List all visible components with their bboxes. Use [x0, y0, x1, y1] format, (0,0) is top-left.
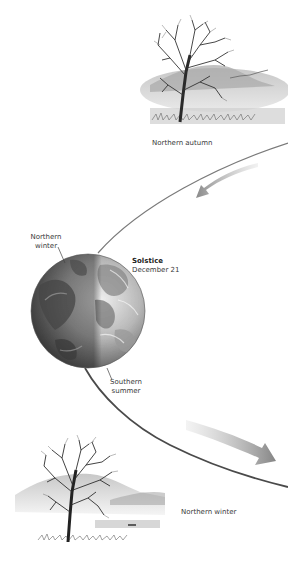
globe-northern-winter-line1: Northern	[28, 233, 64, 242]
solstice-diagram	[0, 0, 288, 583]
solstice-date: December 21	[132, 266, 179, 275]
northern-autumn-label: Northern autumn	[152, 139, 212, 148]
solstice-title: Solstice	[132, 257, 163, 266]
earth-globe-icon	[31, 254, 145, 368]
autumn-tree-icon	[140, 15, 288, 124]
southern-summer-label: Southern summer	[106, 378, 146, 396]
southern-summer-line2: summer	[106, 387, 146, 396]
northern-winter-scene-label: Northern winter	[181, 508, 236, 517]
globe-northern-winter-label: Northern winter	[28, 233, 64, 251]
southern-summer-line1: Southern	[106, 378, 146, 387]
globe-northern-winter-line2: winter	[28, 242, 64, 251]
winter-tree-icon	[15, 435, 165, 542]
upper-orbit-arrow-icon	[196, 163, 258, 198]
orbit-path	[98, 143, 288, 253]
